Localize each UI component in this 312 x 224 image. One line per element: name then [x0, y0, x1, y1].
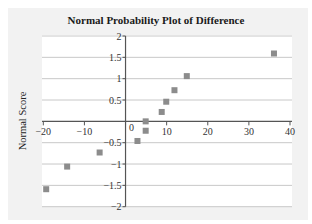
data-point [271, 50, 277, 56]
x-tick-label: 0 [129, 122, 134, 133]
x-tick-label: 10 [162, 126, 172, 137]
data-point [143, 118, 149, 124]
y-tick-label: −1 [111, 159, 122, 170]
data-point [159, 109, 165, 115]
data-point [143, 128, 149, 134]
data-point [171, 87, 177, 93]
y-tick-label: 1.5 [109, 52, 122, 63]
y-tick-label: 0.5 [109, 95, 122, 106]
x-tick-label: 20 [203, 126, 213, 137]
x-tick-label: −10 [77, 126, 93, 137]
y-tick-label: −1.5 [103, 180, 121, 191]
data-point [134, 138, 140, 144]
x-tick-label: −20 [35, 126, 51, 137]
data-point [184, 73, 190, 79]
chart-canvas: 21.510.5−0.5−1−1.5−2−20−10010203040 [0, 0, 312, 224]
y-tick-label: −2 [111, 201, 122, 212]
y-tick-label: −0.5 [103, 137, 121, 148]
x-tick-label: 30 [244, 126, 254, 137]
x-tick-label: 40 [285, 126, 295, 137]
data-point [97, 150, 103, 156]
data-point [64, 164, 70, 170]
data-point [163, 99, 169, 105]
y-tick-label: 1 [117, 73, 122, 84]
data-point [43, 186, 49, 192]
y-tick-label: 2 [117, 31, 122, 42]
